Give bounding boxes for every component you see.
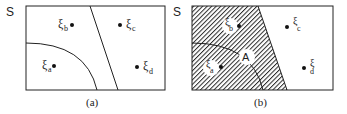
set-boundary (26, 6, 165, 90)
panel-b: S ξ b ξ c A ξ a ξ d ( (173, 5, 333, 109)
point-subscript: b (64, 24, 68, 33)
point-xi-d: ξ d (302, 57, 315, 76)
point-subscript: b (229, 24, 233, 33)
point-subscript: c (132, 24, 136, 33)
partition-line (90, 6, 118, 90)
point-xi-b: ξ b (58, 17, 74, 33)
point-dot (237, 24, 241, 28)
point-subscript: a (210, 66, 214, 75)
point-dot (285, 25, 289, 29)
set-label-s: S (6, 5, 14, 19)
panel-a: S ξ b ξ c ξ a ξ d (a) (6, 5, 165, 109)
point-subscript: d (310, 67, 314, 76)
point-dot (118, 23, 122, 27)
point-dot (135, 65, 139, 69)
point-subscript: a (48, 65, 52, 74)
caption-b: (b) (254, 96, 267, 109)
point-xi-d: ξ d (135, 59, 153, 76)
point-subscript: c (297, 24, 301, 33)
point-xi-a: ξ a (42, 58, 56, 74)
diagram-canvas: S ξ b ξ c ξ a ξ d (a) S (0, 0, 347, 114)
point-subscript: d (149, 67, 153, 76)
point-xi-c: ξ c (118, 17, 136, 33)
set-label-s: S (173, 5, 181, 19)
point-dot (70, 23, 74, 27)
point-dot (302, 66, 306, 70)
point-dot (219, 65, 223, 69)
point-xi-c: ξ c (285, 15, 301, 33)
partition-arc (26, 43, 97, 90)
region-label-a: A (239, 49, 255, 65)
region-label: A (242, 51, 250, 63)
point-dot (52, 64, 56, 68)
caption-a: (a) (86, 96, 99, 109)
